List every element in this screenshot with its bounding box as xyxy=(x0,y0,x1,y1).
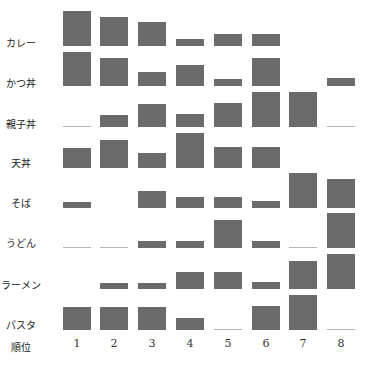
x-tick-label: 7 xyxy=(289,337,317,350)
bar xyxy=(176,114,204,127)
bar xyxy=(176,241,204,248)
bar xyxy=(214,103,242,127)
bar xyxy=(138,241,166,248)
x-axis-title: 順位 xyxy=(0,339,49,354)
bar xyxy=(138,283,166,289)
x-tick-label: 6 xyxy=(252,337,280,350)
zero-bar xyxy=(100,247,128,248)
bar xyxy=(138,153,166,168)
bar xyxy=(327,78,355,86)
bar xyxy=(100,307,128,330)
row-label: かつ丼 xyxy=(0,78,49,90)
x-tick-label: 2 xyxy=(100,337,128,350)
bar xyxy=(327,254,355,289)
zero-bar xyxy=(63,247,91,248)
bar xyxy=(289,261,317,289)
row-label: そば xyxy=(0,198,49,210)
bar xyxy=(63,307,91,330)
bar xyxy=(138,307,166,330)
bar xyxy=(327,213,355,248)
bar xyxy=(63,148,91,168)
bar xyxy=(138,191,166,208)
row-label: うどん xyxy=(0,238,49,250)
bar xyxy=(252,306,280,330)
x-tick-label: 3 xyxy=(138,337,166,350)
row-label: パスタ xyxy=(0,320,49,332)
zero-bar xyxy=(214,329,242,330)
bar xyxy=(176,39,204,46)
bar xyxy=(100,115,128,127)
bar xyxy=(100,58,128,86)
bar xyxy=(252,92,280,127)
zero-bar xyxy=(289,247,317,248)
x-tick-label: 5 xyxy=(214,337,242,350)
bar xyxy=(138,72,166,86)
bar xyxy=(252,241,280,248)
bar xyxy=(138,22,166,46)
bar xyxy=(63,52,91,86)
bar xyxy=(252,34,280,46)
bar xyxy=(214,79,242,86)
row-label: ラーメン xyxy=(0,280,49,292)
bar xyxy=(63,202,91,208)
bar xyxy=(327,179,355,208)
zero-bar xyxy=(327,329,355,330)
x-tick-label: 8 xyxy=(327,337,355,350)
bar xyxy=(176,318,204,330)
rank-bar-chart: カレーかつ丼親子丼天丼そばうどんラーメンパスタ順位12345678 xyxy=(0,0,365,372)
bar xyxy=(289,173,317,208)
bar xyxy=(176,197,204,208)
bar xyxy=(252,282,280,289)
row-label: 親子丼 xyxy=(0,119,49,131)
bar xyxy=(252,147,280,168)
bar xyxy=(100,283,128,289)
bar xyxy=(100,140,128,168)
row-label: カレー xyxy=(0,38,49,50)
bar xyxy=(176,65,204,86)
bar xyxy=(214,34,242,46)
bar xyxy=(176,272,204,289)
bar xyxy=(289,92,317,127)
bar xyxy=(176,133,204,168)
bar xyxy=(289,295,317,330)
bar xyxy=(214,147,242,168)
zero-bar xyxy=(63,126,91,127)
bar xyxy=(252,58,280,86)
x-tick-label: 4 xyxy=(176,337,204,350)
bar xyxy=(214,197,242,208)
row-label: 天丼 xyxy=(0,158,49,170)
zero-bar xyxy=(327,126,355,127)
bar xyxy=(138,104,166,127)
bar xyxy=(252,201,280,208)
bar xyxy=(100,17,128,46)
bar xyxy=(214,220,242,248)
x-tick-label: 1 xyxy=(63,337,91,350)
bar xyxy=(63,11,91,46)
bar xyxy=(214,272,242,289)
